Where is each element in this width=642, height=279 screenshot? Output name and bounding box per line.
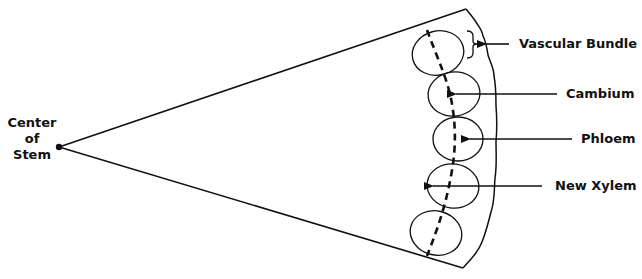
vascular-bundles (405, 25, 483, 261)
phloem-label: Phloem (581, 131, 636, 147)
cambium-label: Cambium (566, 86, 634, 102)
vascular-bundle-label: Vascular Bundle (519, 36, 637, 52)
wedge-lower-edge (59, 147, 463, 268)
stem-section-diagram: Center of Stem Vascular Bundle Cambium P… (0, 0, 642, 279)
wedge-upper-edge (59, 9, 466, 147)
vascular-bundle-bracket (467, 31, 477, 58)
center-label-line-1: Center (2, 115, 62, 131)
new-xylem-label: New Xylem (555, 178, 637, 194)
center-label-line-2: of (2, 131, 62, 147)
center-of-stem-label: Center of Stem (2, 115, 62, 163)
center-label-line-3: Stem (2, 147, 62, 163)
cambium-dashed-line (427, 30, 455, 256)
